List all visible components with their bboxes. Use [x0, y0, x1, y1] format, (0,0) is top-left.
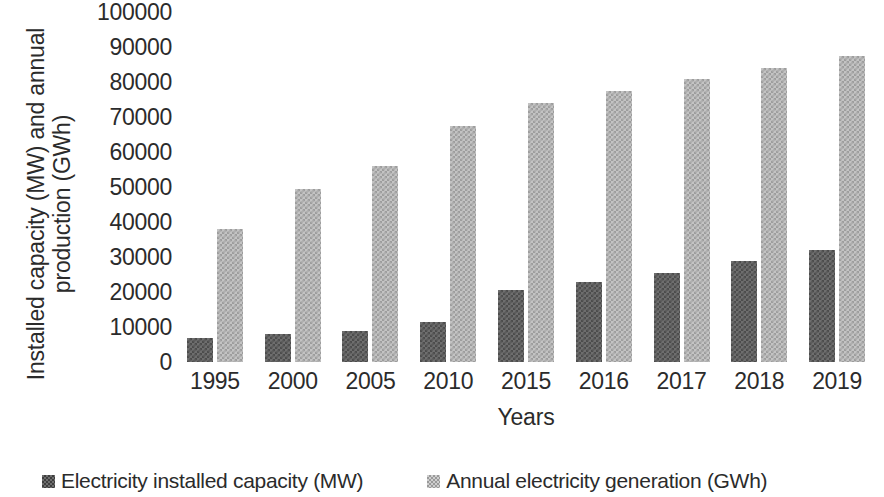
x-axis-title: Years [176, 404, 876, 431]
bar-1995-series-0 [187, 338, 213, 363]
x-axis-tick-labels: 199520002005201020152016201720182019 [176, 370, 876, 400]
y-axis-tick-label: 100000 [62, 1, 172, 24]
bar-2015-series-1 [528, 103, 554, 362]
bar-group [409, 12, 487, 362]
x-axis-tick-label: 1995 [190, 370, 240, 393]
x-axis-tick-label: 2016 [579, 370, 629, 393]
y-axis-tick-labels: 0100002000030000400005000060000700008000… [62, 0, 172, 375]
bar-2016-series-1 [606, 91, 632, 362]
bar-group [798, 12, 876, 362]
legend-label-series-0: Electricity installed capacity (MW) [61, 469, 363, 493]
bar-2015-series-0 [498, 290, 524, 362]
x-axis-tick-label: 2010 [423, 370, 473, 393]
x-axis-tick-label: 2017 [657, 370, 707, 393]
plot-area [176, 12, 876, 362]
legend-label-series-1: Annual electricity generation (GWh) [446, 469, 767, 493]
y-axis-tick-label: 60000 [62, 141, 172, 164]
bar-group [254, 12, 332, 362]
legend-swatch-icon-series-0 [42, 475, 55, 488]
bar-2005-series-0 [342, 331, 368, 363]
bar-group [332, 12, 410, 362]
legend-entry-annual-generation: Annual electricity generation (GWh) [427, 469, 767, 493]
y-axis-tick-label: 90000 [62, 36, 172, 59]
y-axis-tick-label: 40000 [62, 211, 172, 234]
bar-2019-series-0 [809, 250, 835, 362]
bar-group [176, 12, 254, 362]
bar-group [565, 12, 643, 362]
y-axis-tick-label: 50000 [62, 176, 172, 199]
chart-legend: Electricity installed capacity (MW) Annu… [34, 466, 864, 496]
bar-chart-figure: Installed capacity (MW) and annual produ… [0, 0, 884, 497]
bar-2018-series-0 [731, 261, 757, 363]
bar-2017-series-0 [654, 273, 680, 362]
y-axis-tick-label: 0 [62, 351, 172, 374]
x-axis-tick-label: 2018 [734, 370, 784, 393]
bar-2017-series-1 [684, 79, 710, 363]
x-axis-tick-label: 2019 [812, 370, 862, 393]
bar-group [720, 12, 798, 362]
bar-2005-series-1 [372, 166, 398, 362]
y-axis-title-line-1: Installed capacity (MW) and annual [24, 28, 50, 380]
x-axis-tick-label: 2015 [501, 370, 551, 393]
y-axis-tick-label: 70000 [62, 106, 172, 129]
bar-group [487, 12, 565, 362]
bar-2018-series-1 [761, 68, 787, 362]
bar-2010-series-0 [420, 322, 446, 362]
bar-group [643, 12, 721, 362]
legend-swatch-icon-series-1 [427, 475, 440, 488]
legend-entry-installed-capacity: Electricity installed capacity (MW) [42, 469, 363, 493]
bar-2010-series-1 [450, 126, 476, 362]
bar-2000-series-1 [295, 189, 321, 362]
x-axis-tick-label: 2005 [345, 370, 395, 393]
bar-1995-series-1 [217, 229, 243, 362]
y-axis-tick-label: 20000 [62, 281, 172, 304]
bar-2016-series-0 [576, 282, 602, 363]
bar-2000-series-0 [265, 334, 291, 362]
y-axis-tick-label: 80000 [62, 71, 172, 94]
y-axis-tick-label: 10000 [62, 316, 172, 339]
y-axis-tick-label: 30000 [62, 246, 172, 269]
x-axis-tick-label: 2000 [268, 370, 318, 393]
bar-2019-series-1 [839, 56, 865, 362]
